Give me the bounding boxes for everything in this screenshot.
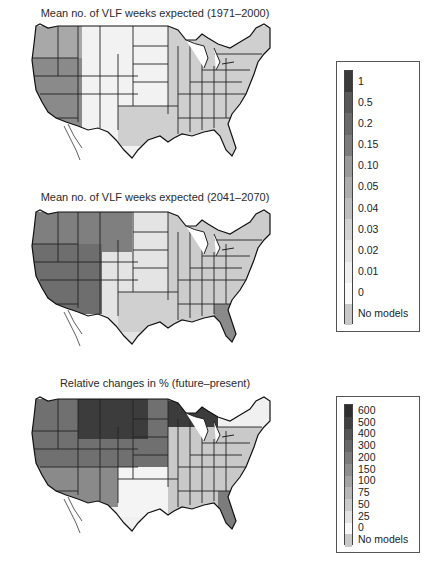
colorbar-swatch	[345, 417, 352, 429]
mexico-coastline	[64, 497, 82, 533]
colorbar-swatch	[345, 113, 352, 135]
panel-present: Mean no. of VLF weeks expected (1971–200…	[0, 0, 310, 190]
colorbar-label: 0.02	[358, 244, 378, 256]
colorbar-label: 400	[358, 427, 376, 439]
panel-title: Mean no. of VLF weeks expected (2041–207…	[0, 191, 310, 203]
colorbar-label: 0.01	[358, 265, 378, 277]
colorbar-label: 150	[358, 463, 376, 475]
colorbar-label: 0.05	[358, 180, 378, 192]
colorbar-swatch	[345, 240, 352, 262]
mexico-coastline	[64, 124, 82, 160]
colorbar-legend-percent: 6005004003002001501007550250No models	[336, 396, 420, 553]
colorbar-swatch	[345, 464, 352, 476]
colorbar-legend-weeks: 10.50.20.150.100.050.040.030.020.010No m…	[336, 61, 420, 332]
colorbar-swatch	[345, 156, 352, 178]
us-map-relative-change	[18, 391, 280, 541]
colorbar-label: 0.10	[358, 159, 378, 171]
colorbar-swatch	[345, 219, 352, 241]
us-map-future	[18, 204, 280, 354]
panel-title: Relative changes in % (future–present)	[0, 377, 310, 389]
colorbar-label: 50	[358, 498, 370, 510]
colorbar-label: 25	[358, 510, 370, 522]
colorbar-label: 0.5	[358, 96, 373, 108]
colorbar-swatch	[345, 304, 352, 326]
colorbar-percent	[344, 404, 353, 545]
colorbar-swatch	[345, 71, 352, 93]
colorbar-swatch	[345, 198, 352, 220]
colorbar-swatch	[345, 511, 352, 523]
colorbar-swatch	[345, 405, 352, 417]
colorbar-swatch	[345, 534, 352, 546]
colorbar-swatch	[345, 177, 352, 199]
us-map-shape	[32, 24, 278, 160]
mexico-coastline	[64, 310, 82, 346]
colorbar-swatch	[345, 523, 352, 535]
colorbar-swatch	[345, 476, 352, 488]
colorbar-label: 200	[358, 451, 376, 463]
colorbar-label: 500	[358, 416, 376, 428]
colorbar-label: 0.15	[358, 138, 378, 150]
colorbar-swatch	[345, 262, 352, 284]
colorbar-swatch	[345, 452, 352, 464]
panel-future: Mean no. of VLF weeks expected (2041–207…	[0, 188, 310, 378]
colorbar-swatch	[345, 499, 352, 511]
colorbar-label: No models	[358, 307, 408, 319]
colorbar-swatch	[345, 440, 352, 452]
colorbar-label: 1	[358, 75, 364, 87]
colorbar-label: 0.03	[358, 223, 378, 235]
panel-relative-change: Relative changes in % (future–present)	[0, 375, 310, 565]
colorbar-label: 0	[358, 521, 364, 533]
colorbar-label: 600	[358, 404, 376, 416]
colorbar-swatch	[345, 135, 352, 157]
colorbar-swatch	[345, 283, 352, 305]
colorbar-swatch	[345, 487, 352, 499]
colorbar-label: No models	[358, 533, 408, 545]
colorbar-label: 75	[358, 486, 370, 498]
colorbar-label: 0	[358, 286, 364, 298]
us-map-present	[18, 18, 280, 168]
colorbar-label: 0.04	[358, 202, 378, 214]
colorbar-swatch	[345, 429, 352, 441]
colorbar-weeks	[344, 70, 353, 324]
colorbar-label: 300	[358, 439, 376, 451]
colorbar-label: 0.2	[358, 117, 373, 129]
colorbar-swatch	[345, 92, 352, 114]
colorbar-label: 100	[358, 474, 376, 486]
